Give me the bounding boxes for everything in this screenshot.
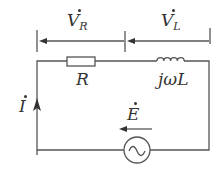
voltage-r-subscript: R xyxy=(79,20,87,33)
e-arrowhead-icon xyxy=(119,126,127,132)
vr-arrowhead-icon xyxy=(39,38,47,44)
inductor-label: jωL xyxy=(158,71,188,88)
current-label: I xyxy=(19,98,26,115)
voltage-l-symbol: V xyxy=(161,10,173,30)
vl-arrowhead-icon xyxy=(127,38,135,44)
source-label: E xyxy=(127,106,139,123)
wire-top-left xyxy=(37,61,67,155)
current-dot xyxy=(24,95,27,98)
voltage-r-dot xyxy=(78,9,81,12)
resistor-symbol xyxy=(67,57,95,66)
voltage-l-label: VL xyxy=(161,12,181,29)
voltage-r-label: VR xyxy=(67,12,88,29)
resistor-label: R xyxy=(76,71,89,88)
source-dot xyxy=(134,102,137,105)
voltage-l-dot xyxy=(172,9,175,12)
inductor-symbol xyxy=(157,58,184,61)
voltage-l-subscript: L xyxy=(173,20,180,33)
sine-wave-icon xyxy=(129,147,145,156)
voltage-r-symbol: V xyxy=(67,10,79,30)
